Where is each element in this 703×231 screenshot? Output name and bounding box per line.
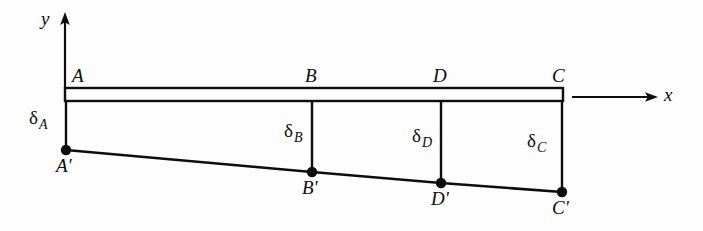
deflection-label-C: δC — [527, 131, 545, 150]
delta-symbol-D: δ — [412, 125, 421, 146]
node-label-B-prime: B' — [302, 178, 318, 197]
node-marker-D-prime — [436, 178, 446, 188]
node-marker-C-prime — [557, 187, 567, 197]
diagram-canvas — [0, 0, 703, 231]
deflection-label-B: δB — [284, 121, 302, 140]
deflection-label-A: δA — [29, 108, 47, 127]
deflection-label-D: δD — [412, 126, 431, 145]
node-label-C: C — [552, 66, 565, 85]
undeformed-beam — [65, 88, 563, 101]
node-marker-A-prime — [61, 145, 71, 155]
delta-symbol-B: δ — [284, 120, 293, 141]
node-label-D: D — [433, 66, 447, 85]
node-label-D-prime: D' — [431, 189, 449, 208]
x-axis — [572, 92, 658, 102]
y-axis-label: y — [41, 9, 49, 28]
node-label-A-prime: A' — [56, 156, 72, 175]
delta-subscript-B: B — [294, 130, 303, 145]
y-axis — [60, 12, 70, 88]
node-label-A: A — [72, 66, 84, 85]
node-label-B: B — [305, 66, 317, 85]
delta-symbol-A: δ — [29, 107, 38, 128]
beam-outline — [65, 88, 563, 101]
delta-symbol-C: δ — [527, 130, 536, 151]
delta-subscript-A: A — [39, 117, 48, 132]
delta-subscript-D: D — [422, 135, 432, 150]
beam-deflection-figure: y x A B D C A' B' D' C' δA δB δD δC — [0, 0, 703, 231]
delta-subscript-C: C — [537, 140, 546, 155]
x-axis-label: x — [664, 85, 672, 104]
node-marker-B-prime — [307, 167, 317, 177]
node-label-C-prime: C' — [552, 198, 569, 217]
